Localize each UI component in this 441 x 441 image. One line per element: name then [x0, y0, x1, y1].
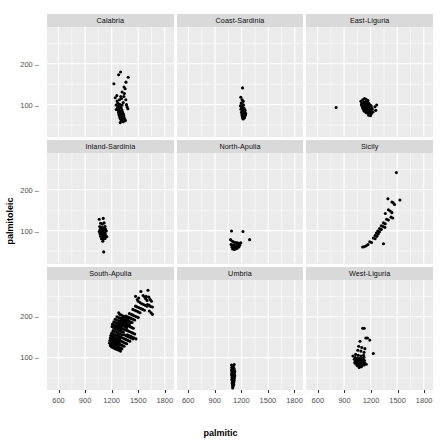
scatter-svg	[177, 27, 304, 137]
x-tick-label: 900	[208, 396, 221, 405]
x-tick-mark	[268, 390, 269, 393]
facet-plot-area	[47, 27, 174, 137]
scatter-svg	[306, 280, 433, 390]
facet-grid: CalabriaCoast-SardiniaEast-LiguriaInland…	[47, 14, 433, 390]
x-tick-mark	[165, 390, 166, 393]
scatter-svg	[306, 153, 433, 263]
scatter-svg	[47, 153, 174, 263]
facet-strip-label: South-Apulia	[47, 267, 174, 280]
facet-plot-area	[47, 280, 174, 390]
y-axis-title: palmitoleic	[2, 0, 16, 441]
x-tick-label: 600	[52, 396, 65, 405]
x-tick-label: 1800	[416, 396, 433, 405]
facet-panel: Sicily	[306, 140, 433, 263]
facet-panel: Inland-Sardinia	[47, 140, 174, 263]
facet-strip-label: Inland-Sardinia	[47, 140, 174, 153]
scatter-svg	[306, 27, 433, 137]
facet-panel: Umbria	[177, 267, 304, 390]
y-tick-label: 200 –	[20, 59, 39, 68]
facet-strip-label: Coast-Sardinia	[177, 14, 304, 27]
y-axis-title-text: palmitoleic	[4, 197, 14, 244]
x-tick-label: 1200	[363, 396, 380, 405]
x-tick-mark	[344, 390, 345, 393]
x-tick-mark	[112, 390, 113, 393]
x-tick-mark	[398, 390, 399, 393]
facet-strip-label: Calabria	[47, 14, 174, 27]
x-tick-mark	[241, 390, 242, 393]
x-tick-label: 1800	[156, 396, 173, 405]
facet-plot-area	[177, 280, 304, 390]
facet-strip-label: North-Apulia	[177, 140, 304, 153]
y-tick-label: 200 –	[20, 186, 39, 195]
x-tick-mark	[59, 390, 60, 393]
x-tick-mark	[215, 390, 216, 393]
x-tick-mark	[188, 390, 189, 393]
x-tick-label: 1500	[130, 396, 147, 405]
scatter-svg	[47, 280, 174, 390]
x-tick-label: 600	[312, 396, 325, 405]
facet-panel: Calabria	[47, 14, 174, 137]
scatter-svg	[47, 27, 174, 137]
x-tick-label: 1200	[233, 396, 250, 405]
facet-plot-area	[47, 153, 174, 263]
facet-strip-label: West-Liguria	[306, 267, 433, 280]
facet-plot-area	[177, 27, 304, 137]
facet-panel: East-Liguria	[306, 14, 433, 137]
y-tick-label: 100 –	[20, 226, 39, 235]
y-tick-label: 200 –	[20, 312, 39, 321]
x-tick-mark	[294, 390, 295, 393]
y-tick-label: 100 –	[20, 353, 39, 362]
facet-plot-area	[306, 280, 433, 390]
facet-panel: North-Apulia	[177, 140, 304, 263]
facet-plot-area	[306, 27, 433, 137]
x-tick-label: 900	[338, 396, 351, 405]
x-tick-label: 1200	[103, 396, 120, 405]
x-axis-title: palmitic	[0, 428, 441, 438]
y-tick-label: 100 –	[20, 100, 39, 109]
x-tick-label: 900	[79, 396, 92, 405]
x-tick-label: 600	[182, 396, 195, 405]
x-axis-ticks: 6009001200150018006009001200150018006009…	[47, 390, 433, 412]
facet-panel: West-Liguria	[306, 267, 433, 390]
x-tick-mark	[424, 390, 425, 393]
x-tick-label: 1800	[286, 396, 303, 405]
facet-strip-label: Umbria	[177, 267, 304, 280]
x-tick-mark	[85, 390, 86, 393]
x-tick-label: 1500	[260, 396, 277, 405]
facet-scatter-plot: palmitoleic 100 –200 –100 –200 –100 –200…	[0, 0, 441, 441]
facet-panel: South-Apulia	[47, 267, 174, 390]
x-tick-mark	[138, 390, 139, 393]
facet-strip-label: Sicily	[306, 140, 433, 153]
x-tick-mark	[318, 390, 319, 393]
x-tick-mark	[371, 390, 372, 393]
scatter-svg	[177, 153, 304, 263]
facet-plot-area	[177, 153, 304, 263]
scatter-svg	[177, 280, 304, 390]
facet-plot-area	[306, 153, 433, 263]
facet-strip-label: East-Liguria	[306, 14, 433, 27]
x-tick-label: 1500	[389, 396, 406, 405]
x-axis-title-text: palmitic	[203, 428, 237, 438]
facet-panel: Coast-Sardinia	[177, 14, 304, 137]
